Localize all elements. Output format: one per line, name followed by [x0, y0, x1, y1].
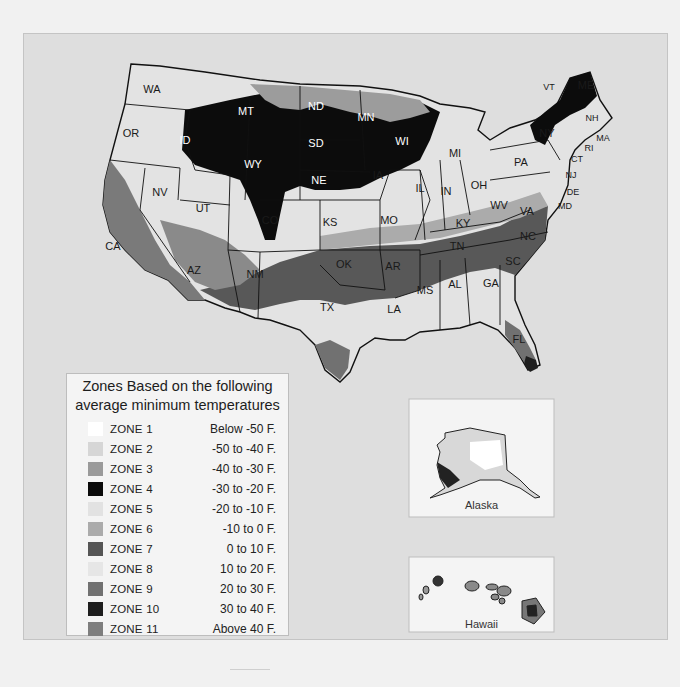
state-label-vt: VT [543, 82, 555, 92]
legend-row-zone-10: ZONE 1030 to 40 F. [67, 599, 288, 619]
zone-name: ZONE 4 [110, 483, 186, 495]
state-label-tx: TX [320, 301, 335, 313]
zone-name: ZONE 5 [110, 503, 186, 515]
zone-name: ZONE 7 [110, 543, 186, 555]
state-label-nh: NH [586, 113, 599, 123]
legend-row-zone-9: ZONE 920 to 30 F. [67, 579, 288, 599]
state-label-al: AL [448, 278, 461, 290]
zone-swatch [88, 442, 103, 456]
state-label-ok: OK [336, 258, 353, 270]
zone-range: Above 40 F. [186, 622, 276, 636]
zone-swatch [88, 562, 103, 576]
state-label-ar: AR [385, 260, 400, 272]
zone-name: ZONE 3 [110, 463, 186, 475]
state-label-la: LA [387, 303, 401, 315]
state-label-wv: WV [490, 199, 508, 211]
state-label-pa: PA [514, 156, 529, 168]
state-label-or: OR [123, 127, 140, 139]
state-label-oh: OH [471, 179, 488, 191]
legend-row-zone-3: ZONE 3-40 to -30 F. [67, 459, 288, 479]
zone-range: 20 to 30 F. [186, 582, 276, 596]
state-label-me: ME [578, 79, 595, 91]
state-label-ne: NE [311, 174, 326, 186]
zone-swatch [88, 502, 103, 516]
legend-row-zone-8: ZONE 810 to 20 F. [67, 559, 288, 579]
zone-name: ZONE 8 [110, 563, 186, 575]
state-label-mt: MT [238, 105, 254, 117]
zone-legend: Zones Based on the following average min… [66, 373, 289, 636]
state-label-ut: UT [196, 202, 211, 214]
state-label-ia: IA [373, 169, 384, 181]
state-label-ct: CT [571, 154, 583, 164]
state-label-az: AZ [187, 264, 201, 276]
legend-row-zone-2: ZONE 2-50 to -40 F. [67, 439, 288, 459]
zone-range: 10 to 20 F. [186, 562, 276, 576]
zone-swatch [88, 582, 103, 596]
state-label-mi: MI [449, 147, 461, 159]
legend-title-line-2: average minimum temperatures [67, 396, 288, 415]
legend-title-line-1: Zones Based on the following [67, 377, 288, 396]
legend-row-zone-4: ZONE 4-30 to -20 F. [67, 479, 288, 499]
divider [230, 669, 270, 670]
legend-row-zone-1: ZONE 1Below -50 F. [67, 419, 288, 439]
state-label-ga: GA [483, 277, 500, 289]
state-label-nv: NV [152, 186, 168, 198]
state-label-de: DE [567, 187, 580, 197]
zone-swatch [88, 422, 103, 436]
zone-range: 0 to 10 F. [186, 542, 276, 556]
hawaii-label: Hawaii [409, 618, 554, 630]
zone-name: ZONE 6 [110, 523, 186, 535]
legend-row-zone-11: ZONE 11Above 40 F. [67, 619, 288, 639]
zone-range: -40 to -30 F. [186, 462, 276, 476]
zone-range: Below -50 F. [186, 422, 276, 436]
state-label-mo: MO [380, 214, 398, 226]
zone-range: -10 to 0 F. [186, 522, 276, 536]
state-label-wa: WA [143, 83, 161, 95]
state-label-mn: MN [357, 111, 374, 123]
state-label-ks: KS [323, 216, 338, 228]
zone-swatch [88, 482, 103, 496]
zone-swatch [88, 542, 103, 556]
state-label-in: IN [441, 185, 452, 197]
zone-range: -50 to -40 F. [186, 442, 276, 456]
state-label-ms: MS [417, 284, 434, 296]
state-label-fl: FL [513, 333, 526, 345]
state-label-nc: NC [520, 230, 536, 242]
state-label-wy: WY [244, 158, 262, 170]
state-label-id: ID [180, 134, 191, 146]
state-label-ma: MA [596, 133, 610, 143]
zone-name: ZONE 9 [110, 583, 186, 595]
alaska-label: Alaska [409, 499, 554, 511]
state-label-nd: ND [308, 100, 324, 112]
state-label-sd: SD [308, 137, 323, 149]
zone-swatch [88, 622, 103, 636]
state-label-sc: SC [505, 255, 520, 267]
zone-swatch [88, 602, 103, 616]
zone-swatch [88, 462, 103, 476]
legend-title: Zones Based on the following average min… [67, 377, 288, 415]
state-label-co: CO [262, 214, 279, 226]
state-label-ca: CA [105, 240, 121, 252]
zone-range: -30 to -20 F. [186, 482, 276, 496]
state-label-wi: WI [395, 135, 408, 147]
legend-row-zone-6: ZONE 6-10 to 0 F. [67, 519, 288, 539]
zone-name: ZONE 10 [110, 603, 186, 615]
state-label-nj: NJ [566, 170, 577, 180]
state-label-ky: KY [456, 217, 471, 229]
zone-swatch [88, 522, 103, 536]
state-label-ri: RI [585, 143, 594, 153]
state-label-il: IL [415, 182, 424, 194]
zone-range: 30 to 40 F. [186, 602, 276, 616]
legend-row-zone-5: ZONE 5-20 to -10 F. [67, 499, 288, 519]
zone-range: -20 to -10 F. [186, 502, 276, 516]
legend-rows: ZONE 1Below -50 F. ZONE 2-50 to -40 F. Z… [67, 419, 288, 639]
state-label-md: MD [558, 201, 572, 211]
zone-name: ZONE 2 [110, 443, 186, 455]
state-label-tn: TN [450, 240, 465, 252]
state-label-ny: NY [539, 127, 555, 139]
zone-name: ZONE 11 [110, 623, 186, 635]
state-label-nm: NM [246, 268, 263, 280]
zone-name: ZONE 1 [110, 423, 186, 435]
state-label-va: VA [520, 205, 535, 217]
legend-row-zone-7: ZONE 70 to 10 F. [67, 539, 288, 559]
